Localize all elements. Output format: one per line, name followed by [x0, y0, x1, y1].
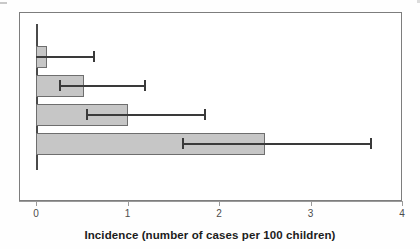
chart-container: 01234 Incidence (number of cases per 100…	[0, 0, 420, 249]
x-axis-tick-label: 2	[207, 207, 231, 218]
x-axis-tick-label: 1	[116, 207, 140, 218]
x-axis-tick	[402, 201, 403, 206]
error-bar-cap-high	[93, 51, 95, 62]
error-bar-cap-high	[204, 109, 206, 120]
error-bar-line	[86, 114, 204, 116]
error-bar-cap-high	[144, 80, 146, 91]
error-bar-line	[59, 85, 144, 87]
error-bar-cap-low	[182, 138, 184, 149]
x-axis-line	[19, 201, 402, 202]
error-bar-cap-low	[59, 80, 61, 91]
x-axis-tick	[311, 201, 312, 206]
x-axis-tick-label: 4	[390, 207, 414, 218]
error-bar-cap-low	[86, 109, 88, 120]
x-axis-tick-label: 0	[24, 207, 48, 218]
scan-artifact-top-left	[0, 2, 7, 4]
error-bar-line	[36, 56, 93, 58]
x-axis-tick	[219, 201, 220, 206]
x-axis-tick-label: 3	[299, 207, 323, 218]
plot-area	[19, 12, 402, 201]
error-bar-line	[182, 143, 370, 145]
x-axis-tick	[128, 201, 129, 206]
x-axis-title: Incidence (number of cases per 100 child…	[0, 229, 420, 241]
error-bar-cap-high	[370, 138, 372, 149]
x-axis-tick	[36, 201, 37, 206]
